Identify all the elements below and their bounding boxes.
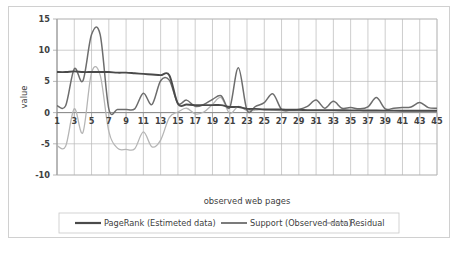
y-tick-label: 0 <box>44 108 50 118</box>
chart-plot-area: 1357911131517192123252729313335373941434… <box>9 7 451 239</box>
legend-label-0: PageRank (Estimeted data) <box>104 218 216 228</box>
x-tick-label: 21 <box>224 116 236 126</box>
chart-frame: 1357911131517192123252729313335373941434… <box>8 6 450 238</box>
x-tick-label: 13 <box>155 116 167 126</box>
x-tick-label: 41 <box>397 116 409 126</box>
x-axis-title: observed web pages <box>204 196 291 206</box>
x-tick-label: 29 <box>293 116 305 126</box>
x-tick-label: 43 <box>414 116 426 126</box>
x-tick-label: 23 <box>241 116 253 126</box>
y-axis-title: value <box>19 86 29 109</box>
x-tick-label: 27 <box>276 116 288 126</box>
x-tick-label: 39 <box>379 116 391 126</box>
x-tick-label: 3 <box>71 116 77 126</box>
x-tick-label: 35 <box>345 116 357 126</box>
x-tick-label: 25 <box>259 116 271 126</box>
y-tick-label: 15 <box>39 14 51 24</box>
x-tick-label: 17 <box>189 116 201 126</box>
y-tick-label: -10 <box>35 170 50 180</box>
y-tick-label: 5 <box>44 76 50 86</box>
x-tick-label: 1 <box>54 116 60 126</box>
x-tick-label: 15 <box>172 116 184 126</box>
x-tick-label: 37 <box>362 116 374 126</box>
x-tick-label: 33 <box>328 116 340 126</box>
y-tick-label: -5 <box>41 139 50 149</box>
x-tick-label: 7 <box>106 116 112 126</box>
y-tick-label: 10 <box>39 45 51 55</box>
x-tick-label: 31 <box>310 116 322 126</box>
x-tick-label: 9 <box>123 116 129 126</box>
x-tick-label: 19 <box>207 116 219 126</box>
x-tick-label: 45 <box>431 116 443 126</box>
x-tick-label: 5 <box>89 116 95 126</box>
legend-label-2: Residual <box>350 218 385 228</box>
chart-screenshot: 1357911131517192123252729313335373941434… <box>0 0 465 264</box>
x-tick-label: 11 <box>138 116 150 126</box>
line-chart: 1357911131517192123252729313335373941434… <box>9 7 451 239</box>
